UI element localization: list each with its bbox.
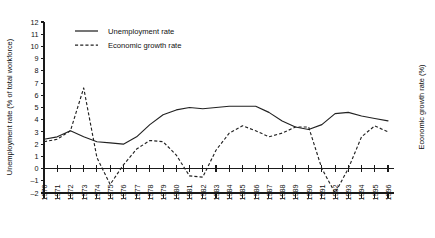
x-axis-tick-label: 1980 [172, 185, 181, 201]
x-axis-tick-label: 1989 [291, 185, 300, 201]
zero-baseline-axis [44, 165, 394, 171]
series-line-economic-growth-rate [44, 88, 388, 193]
y-axis-tick-label: 6 [35, 91, 39, 100]
economic-indicators-chart: Unemployment rate Economic growth rate –… [0, 0, 435, 238]
y-axis-tick-label: –2 [31, 189, 39, 198]
legend-label-unemployment-rate: Unemployment rate [108, 27, 174, 36]
x-axis-tick-label: 1970 [40, 185, 49, 201]
y-axis-tick-label: 1 [35, 152, 39, 161]
y-axis-tick-label: 9 [35, 54, 39, 63]
x-axis: 1970197119721973197419751976197719781979… [40, 185, 394, 201]
y-axis-tick-label: 10 [31, 42, 39, 51]
y-axis-tick-label: –1 [31, 176, 39, 185]
legend-label-economic-growth-rate: Economic growth rate [108, 41, 181, 50]
data-series-group [44, 88, 388, 193]
x-axis-tick-label: 1993 [344, 185, 353, 201]
x-axis-tick-label: 1987 [265, 185, 274, 201]
x-axis-tick-label: 1973 [80, 185, 89, 201]
legend-group: Unemployment rate Economic growth rate [75, 27, 181, 50]
x-axis-tick-label: 1988 [278, 185, 287, 201]
y-axis: –2–10123456789101112 [31, 18, 45, 198]
x-axis-tick-label: 1995 [371, 185, 380, 201]
x-axis-tick-label: 1986 [252, 185, 261, 201]
y-axis-tick-label: 7 [35, 79, 39, 88]
y-axis-tick-label: 5 [35, 103, 39, 112]
x-axis-tick-label: 1978 [146, 185, 155, 201]
y-axis-tick-label: 0 [35, 164, 39, 173]
x-axis-tick-label: 1979 [159, 185, 168, 201]
y-axis-tick-label: 4 [35, 115, 39, 124]
y-axis-tick-label: 8 [35, 66, 39, 75]
x-axis-tick-label: 1971 [53, 185, 62, 201]
x-axis-tick-label: 1991 [318, 185, 327, 201]
x-axis-tick-label: 1977 [133, 185, 142, 201]
x-axis-tick-label: 1984 [225, 185, 234, 201]
chart-container: Unemployment rate Economic growth rate –… [0, 0, 435, 238]
series-line-unemployment-rate [44, 106, 388, 144]
x-axis-tick-label: 1990 [305, 185, 314, 201]
x-axis-tick-label: 1975 [106, 185, 115, 201]
x-axis-tick-label: 1982 [199, 185, 208, 201]
x-axis-tick-label: 1972 [66, 185, 75, 201]
y-axis-tick-label: 3 [35, 128, 39, 137]
x-axis-tick-label: 1994 [357, 185, 366, 201]
y-axis-tick-label: 11 [31, 30, 38, 39]
x-axis-tick-label: 1976 [119, 185, 128, 201]
x-axis-tick-label: 1985 [238, 185, 247, 201]
x-axis-tick-label: 1996 [384, 185, 393, 201]
y-axis-title: Unemployment rate (% of total workforce) [5, 39, 14, 175]
x-axis-tick-label: 1983 [212, 185, 221, 201]
secondary-y-axis-title: Economic growth rate (%) [417, 64, 426, 149]
x-axis-tick-label: 1974 [93, 185, 102, 201]
y-axis-tick-label: 2 [35, 140, 39, 149]
x-axis-tick-label: 1981 [185, 185, 194, 201]
y-axis-tick-label: 12 [31, 18, 39, 27]
